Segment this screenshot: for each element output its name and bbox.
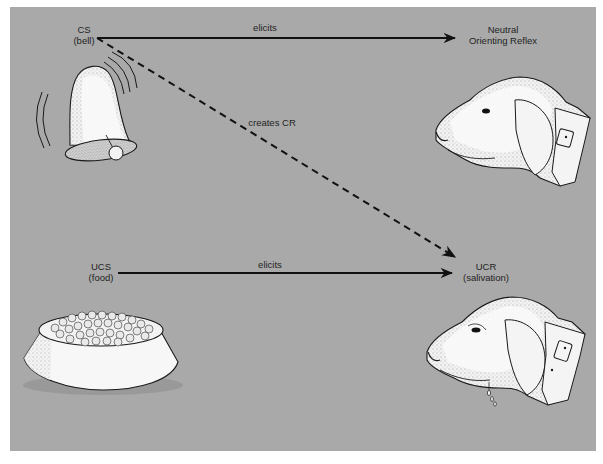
node-cs-label: CS bbox=[72, 24, 96, 35]
node-neutral-label: Neutral bbox=[458, 24, 548, 35]
node-neutral: Neutral Orienting Reflex bbox=[458, 24, 548, 46]
node-ucr: UCR (salivation) bbox=[460, 261, 512, 283]
node-ucs-label: UCS bbox=[86, 261, 116, 272]
node-ucr-sublabel: (salivation) bbox=[460, 272, 512, 283]
node-ucr-label: UCR bbox=[460, 261, 512, 272]
node-cs-sublabel: (bell) bbox=[72, 35, 96, 46]
food-bowl-icon bbox=[23, 311, 183, 395]
edge-cs-to-ucr-label: creates CR bbox=[244, 117, 300, 128]
edge-ucs-to-ucr-label: elicits bbox=[245, 259, 295, 270]
dog-head-salivating-icon bbox=[427, 297, 585, 406]
node-cs: CS (bell) bbox=[72, 24, 96, 46]
node-neutral-sublabel: Orienting Reflex bbox=[458, 35, 548, 46]
node-ucs: UCS (food) bbox=[86, 261, 116, 283]
dog-head-alert-icon bbox=[436, 77, 590, 186]
node-ucs-sublabel: (food) bbox=[86, 272, 116, 283]
diagram-canvas bbox=[0, 0, 603, 464]
bell-icon bbox=[36, 52, 137, 164]
edge-cs-to-neutral-label: elicits bbox=[240, 22, 290, 33]
edge-cs-to-ucr bbox=[97, 38, 455, 257]
